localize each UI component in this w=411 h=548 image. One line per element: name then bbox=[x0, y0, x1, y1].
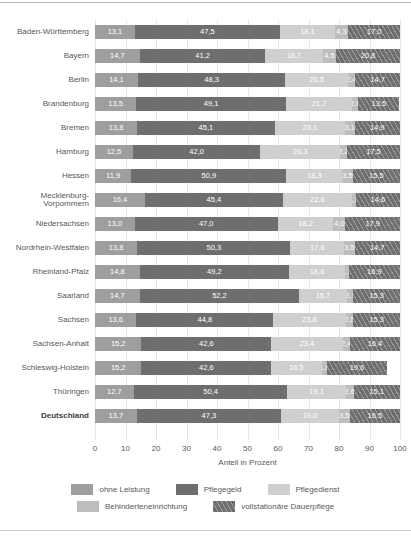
stacked-bar: 14,148,320,52,414,7 bbox=[95, 73, 400, 87]
row-category-label: Bremen bbox=[0, 121, 89, 135]
bar-segment: 47,5 bbox=[135, 25, 280, 39]
bar-segment-value: 15,5 bbox=[369, 172, 384, 180]
stacked-bar: 14,741,218,74,520,8 bbox=[95, 49, 400, 63]
row-category-label: Hamburg bbox=[0, 145, 89, 159]
bar-segment-value: 18,6 bbox=[310, 268, 325, 276]
row-category-label: Schleswig-Holstein bbox=[0, 361, 89, 375]
legend-label: vollstationäre Dauerpflege bbox=[241, 502, 334, 511]
x-axis-title: Anteil in Prozent bbox=[95, 458, 400, 467]
bar-segment: 2,5 bbox=[346, 313, 354, 327]
bar-segment: 22,6 bbox=[283, 193, 352, 207]
bar-segment: 18,7 bbox=[265, 49, 322, 63]
row-category-label: Berlin bbox=[0, 73, 89, 87]
row-category-label: Bayern bbox=[0, 49, 89, 63]
bar-segment: 14,7 bbox=[95, 49, 140, 63]
x-axis-tick-label: 80 bbox=[335, 444, 344, 453]
bar-segment: 16,5 bbox=[350, 409, 400, 423]
bar-segment: 15,5 bbox=[353, 169, 400, 183]
bar-segment-value: 16,4 bbox=[113, 196, 128, 204]
row-category-label: Nordrhein-Westfalen bbox=[0, 241, 89, 255]
bar-segment-value: 49,2 bbox=[207, 268, 222, 276]
bar-segment: 50,9 bbox=[131, 169, 286, 183]
bar-segment: 26,3 bbox=[260, 145, 340, 159]
bar-segment: 15,2 bbox=[95, 337, 141, 351]
legend-row-primary: ohne LeistungPflegegeldPflegedienst bbox=[0, 484, 411, 495]
bar-segment-value: 22,6 bbox=[310, 196, 325, 204]
bar-segment-value: 14,9 bbox=[370, 124, 385, 132]
legend-item[interactable]: Behinderteneinrichtung bbox=[77, 501, 187, 512]
bar-segment-value: 52,2 bbox=[212, 292, 227, 300]
stacked-bar: 13,047,018,24,017,9 bbox=[95, 217, 400, 231]
bar-segment-value: 11,9 bbox=[106, 172, 120, 180]
bar-segment-value: 13,8 bbox=[109, 124, 124, 132]
x-axis-tick-label: 0 bbox=[93, 444, 97, 453]
bar-segment: 14,7 bbox=[355, 73, 400, 87]
bar-segment: 16,9 bbox=[349, 265, 400, 279]
bar-segment: 48,3 bbox=[138, 73, 285, 87]
bar-segment-value: 41,2 bbox=[195, 52, 210, 60]
row-category-label: Hessen bbox=[0, 169, 89, 183]
row-category-label: Deutschland bbox=[0, 409, 89, 423]
bar-segment-value: 14,7 bbox=[370, 76, 385, 84]
bar-segment-value: 16,5 bbox=[289, 364, 304, 372]
bar-segment: 18,3 bbox=[286, 169, 342, 183]
bar-segment-value: 14,1 bbox=[109, 76, 124, 84]
chart-row: Schleswig-Holstein15,242,616,51,819,6 bbox=[95, 356, 400, 380]
legend-row-secondary: Behinderteneinrichtungvollstationäre Dau… bbox=[0, 501, 411, 512]
bar-segment-value: 13,8 bbox=[109, 244, 124, 252]
bar-segment-value: 15,3 bbox=[369, 292, 384, 300]
stacked-bar: 13,549,121,72,013,5 bbox=[95, 97, 400, 111]
chart-row: Sachsen-Anhalt15,242,623,42,416,4 bbox=[95, 332, 400, 356]
stacked-bar: 11,950,918,33,515,5 bbox=[95, 169, 400, 183]
bar-segment-value: 50,3 bbox=[206, 244, 221, 252]
bar-segment: 13,8 bbox=[95, 241, 137, 255]
row-category-label: Baden-Württemberg bbox=[0, 25, 89, 39]
legend-item[interactable]: ohne Leistung bbox=[71, 484, 149, 495]
bar-segment: 41,2 bbox=[140, 49, 266, 63]
bar-segment: 3,5 bbox=[344, 241, 355, 255]
bar-segment: 2,4 bbox=[348, 73, 355, 87]
stacked-bar: 12,542,026,32,217,5 bbox=[95, 145, 400, 159]
bar-segment-value: 15,1 bbox=[369, 388, 384, 396]
bar-segment: 14,6 bbox=[356, 193, 400, 207]
bar-segment-value: 12,7 bbox=[107, 388, 122, 396]
bar-segment: 13,5 bbox=[358, 97, 399, 111]
legend-item[interactable]: Pflegedienst bbox=[268, 484, 340, 495]
x-axis-tick-label: 40 bbox=[213, 444, 222, 453]
bar-segment-value: 3,5 bbox=[344, 244, 354, 252]
bar-segment: 17,5 bbox=[347, 145, 400, 159]
bar-segment-value: 18,1 bbox=[300, 28, 315, 36]
x-axis-tick-label: 70 bbox=[304, 444, 313, 453]
bar-segment: 50,3 bbox=[137, 241, 290, 255]
bar-segment: 45,4 bbox=[145, 193, 283, 207]
bar-segment: 19,1 bbox=[287, 385, 345, 399]
chart-row: Bremen13,845,123,13,114,9 bbox=[95, 116, 400, 140]
bar-segment-value: 13,6 bbox=[108, 316, 123, 324]
row-category-label: Rheinland-Pfalz bbox=[0, 265, 89, 279]
bar-segment: 49,1 bbox=[136, 97, 286, 111]
bar-segment: 42,0 bbox=[133, 145, 260, 159]
bar-segment-value: 16,5 bbox=[367, 412, 382, 420]
bar-segment-value: 42,6 bbox=[199, 364, 214, 372]
legend-item[interactable]: vollstationäre Dauerpflege bbox=[213, 501, 334, 512]
bar-segment-value: 2,4 bbox=[343, 340, 350, 348]
bar-segment: 3,5 bbox=[339, 409, 350, 423]
x-axis-tick-label: 20 bbox=[152, 444, 161, 453]
row-category-label: Sachsen bbox=[0, 313, 89, 327]
bar-segment-value: 47,3 bbox=[202, 412, 217, 420]
legend-item[interactable]: Pflegegeld bbox=[176, 484, 242, 495]
x-axis-tick-label: 10 bbox=[121, 444, 130, 453]
x-axis: 0102030405060708090100 bbox=[95, 440, 400, 460]
chart-row: Saarland14,752,215,72,115,3 bbox=[95, 284, 400, 308]
bar-segment-value: 26,3 bbox=[293, 148, 308, 156]
bar-segment-value: 21,7 bbox=[312, 100, 327, 108]
legend-swatch bbox=[213, 501, 235, 512]
bar-segment: 13,5 bbox=[95, 97, 136, 111]
bar-segment: 13,0 bbox=[95, 217, 135, 231]
bar-segment-value: 3,1 bbox=[345, 124, 354, 132]
bar-segment: 16,5 bbox=[271, 361, 321, 375]
bar-segment: 18,1 bbox=[280, 25, 335, 39]
bar-segment: 14,1 bbox=[95, 73, 138, 87]
bar-segment-value: 42,6 bbox=[199, 340, 214, 348]
bar-segment: 15,1 bbox=[354, 385, 400, 399]
